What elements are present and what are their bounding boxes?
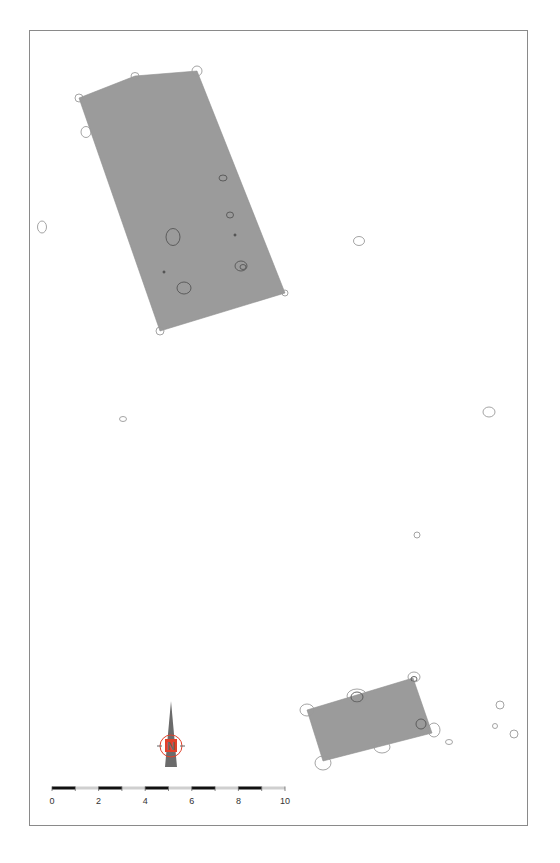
scale-bar-segment (192, 787, 215, 790)
scale-bar-label: 2 (96, 796, 101, 806)
feature-outline (493, 724, 498, 729)
scale-bar-label: 10 (280, 796, 290, 806)
feature-outline (81, 127, 91, 138)
site-plan-map: N 0246810 (0, 0, 560, 863)
feature-outline (354, 237, 365, 246)
scale-bar-segment (215, 787, 238, 790)
scale-bar-label: 8 (236, 796, 241, 806)
scale-bar-label: 4 (143, 796, 148, 806)
scale-bar-segment (145, 787, 168, 790)
scale-bar-label: 0 (49, 796, 54, 806)
excavation-area-north (79, 71, 285, 331)
interior-feature (234, 234, 236, 236)
north-arrow-icon: N (157, 701, 185, 767)
feature-outline (483, 407, 495, 417)
excavation-area-south (307, 678, 432, 761)
scale-bar-segment (75, 787, 98, 790)
interior-feature (163, 271, 165, 273)
scale-bar-label: 6 (189, 796, 194, 806)
scale-bar-segment (99, 787, 122, 790)
scale-bar-segment (169, 787, 192, 790)
excavation-areas-layer (79, 71, 432, 761)
scale-bar-segment (122, 787, 145, 790)
scale-bar: 0246810 (49, 787, 290, 807)
feature-outline (510, 730, 518, 738)
feature-outline (446, 740, 453, 745)
feature-outline (496, 701, 504, 709)
feature-outline (38, 221, 47, 233)
scale-bar-segment (52, 787, 75, 790)
feature-outline (120, 417, 127, 422)
feature-outline (414, 532, 420, 538)
scale-bar-segment (262, 787, 285, 790)
north-arrow-letter: N (167, 740, 175, 752)
scale-bar-segment (238, 787, 261, 790)
